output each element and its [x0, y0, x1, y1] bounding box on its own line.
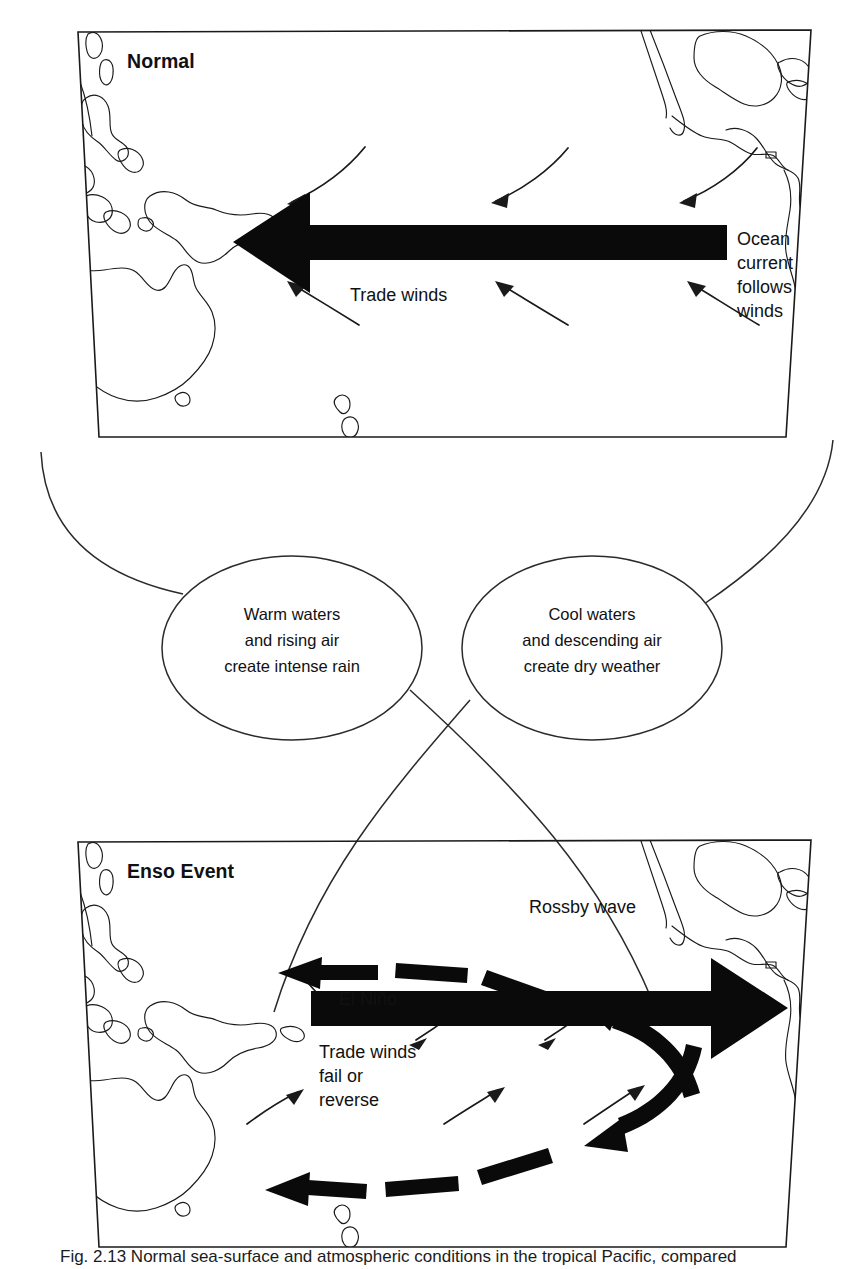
- panel-enso-contents: [38, 836, 828, 1247]
- label-ocean-current-line2: current: [737, 253, 793, 273]
- rossby-wave-lower-curve: [584, 1044, 702, 1152]
- rossby-upper-head: [278, 957, 322, 989]
- wind-arrow-6-head: [687, 281, 706, 297]
- bubble-cool-waters: Cool waters and descending air create dr…: [462, 556, 722, 740]
- label-ocean-current-line3: follows: [737, 277, 792, 297]
- bubble-cool-line1: Cool waters: [548, 605, 635, 623]
- label-el-nino: El Niño: [339, 989, 397, 1009]
- connector-lines: [41, 440, 833, 1012]
- panel-normal: Normal Trade winds Ocean current follows…: [38, 26, 828, 437]
- wind-arrows-upper: [287, 147, 757, 209]
- rossby-lower-seg2: [385, 1176, 459, 1197]
- label-ocean-current-line4: winds: [736, 301, 783, 321]
- label-trade-winds-enso-line2: fail or: [319, 1066, 363, 1086]
- bubble-warm-line2: and rising air: [245, 631, 340, 649]
- coastline-eastern-pacific: [640, 28, 828, 374]
- label-trade-winds-normal: Trade winds: [350, 285, 447, 305]
- rossby-lower-seg3: [477, 1148, 553, 1185]
- panel-normal-contents: [38, 26, 828, 437]
- bubble-warm-line3: create intense rain: [224, 657, 360, 675]
- wind-arrow-3-head: [679, 193, 697, 208]
- bubble-warm-line1: Warm waters: [244, 605, 341, 623]
- rossby-wave-lower-dashed: [265, 1148, 553, 1206]
- label-trade-winds-enso-line1: Trade winds: [319, 1042, 416, 1062]
- label-rossby-wave: Rossby wave: [529, 897, 636, 917]
- rossby-upper-seg2: [395, 963, 468, 983]
- connector-top-to-warm-bubble: [41, 452, 183, 594]
- bubble-cool-line2: and descending air: [522, 631, 662, 649]
- rossby-upper-seg1: [320, 965, 378, 980]
- figure-caption: Fig. 2.13 Normal sea-surface and atmosph…: [60, 1246, 868, 1269]
- figure-caption-text: Fig. 2.13 Normal sea-surface and atmosph…: [60, 1246, 868, 1268]
- ocean-current-arrow-west: [233, 192, 727, 293]
- label-trade-winds-enso-line3: reverse: [319, 1090, 379, 1110]
- wind-arrow-2-head: [491, 193, 509, 208]
- rossby-lower-curve-head: [584, 1118, 628, 1152]
- connector-top-to-cool-bubble: [704, 440, 833, 604]
- enso-wind-arrow-5-head: [487, 1087, 505, 1103]
- enso-wind-arrow-6-head: [627, 1085, 645, 1101]
- wind-arrow-1: [292, 147, 365, 202]
- panel-normal-title: Normal: [127, 50, 195, 72]
- enso-wind-arrow-4-head: [286, 1089, 304, 1105]
- rossby-lower-seg1: [307, 1180, 367, 1199]
- panel-enso-title: Enso Event: [127, 860, 235, 882]
- panel-enso: Enso Event Rossby wave El Niño Trade win…: [38, 836, 828, 1247]
- rossby-lower-head: [265, 1172, 310, 1206]
- wind-arrow-3: [684, 148, 757, 201]
- bubble-warm-waters: Warm waters and rising air create intens…: [162, 556, 422, 740]
- bubble-cool-line3: create dry weather: [524, 657, 661, 675]
- label-ocean-current-line1: Ocean: [737, 229, 790, 249]
- wind-arrow-5-head: [495, 281, 514, 297]
- wind-arrows-lower-enso: [247, 1085, 645, 1124]
- wind-arrow-2: [496, 148, 568, 201]
- enso-wind-arrow-3-head: [538, 1038, 556, 1050]
